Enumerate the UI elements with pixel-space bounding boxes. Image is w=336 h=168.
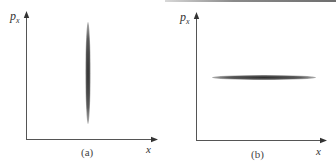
panel-b-horizontal-ellipse	[212, 75, 316, 80]
phase-space-diagram	[0, 0, 336, 168]
panel-b-y-label-subscript: x	[186, 17, 190, 26]
panel-a-y-label-subscript: x	[16, 16, 20, 25]
panel-a-x-axis-arrow-icon	[151, 137, 158, 142]
panel-a-y-axis-arrow-icon	[24, 11, 29, 18]
panel-b-x-axis-arrow-icon	[320, 138, 327, 143]
panel-b-caption: (b)	[251, 149, 264, 160]
panel-a-y-axis-label: px	[10, 10, 20, 24]
panel-a-vertical-ellipse	[85, 22, 90, 124]
panel-a	[24, 11, 158, 142]
panel-b-x-axis-label: x	[316, 145, 321, 157]
panel-a-caption: (a)	[81, 147, 93, 158]
panel-b	[194, 12, 327, 143]
panel-b-y-axis-arrow-icon	[194, 12, 199, 19]
panel-b-y-axis-label: px	[180, 11, 190, 25]
panel-a-x-axis-label: x	[146, 143, 151, 155]
